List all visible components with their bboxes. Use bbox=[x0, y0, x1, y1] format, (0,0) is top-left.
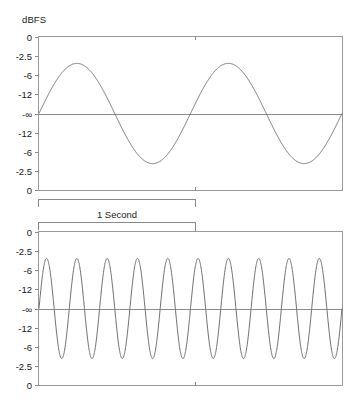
y-tick-mark bbox=[35, 251, 38, 252]
y-tick-label: 0 bbox=[0, 380, 32, 391]
y-tick-label: -6 bbox=[0, 265, 32, 276]
waveform-curve-high-frequency bbox=[39, 232, 342, 385]
y-tick-label: -12 bbox=[0, 284, 32, 295]
y-tick-mark bbox=[35, 289, 38, 290]
x-tick-one-second-bottom bbox=[195, 382, 196, 386]
waveform-figure: dBFS 0-2.5-6-12-∞-12-6-2.50 1 Second bbox=[0, 0, 354, 401]
y-tick-label: -∞ bbox=[0, 303, 32, 314]
y-tick-mark bbox=[35, 328, 38, 329]
x-tick-one-second-top bbox=[195, 228, 196, 232]
y-tick-label: -2.5 bbox=[0, 360, 32, 371]
y-tick-mark bbox=[35, 232, 38, 233]
y-tick-label: 0 bbox=[0, 227, 32, 238]
chart-panel-high-frequency: 0-2.5-6-12-∞-12-6-2.50 bbox=[0, 0, 354, 401]
y-tick-mark bbox=[35, 366, 38, 367]
y-tick-mark bbox=[35, 347, 38, 348]
y-tick-mark bbox=[35, 385, 38, 386]
y-tick-label: -6 bbox=[0, 341, 32, 352]
plot-frame-high-frequency bbox=[38, 231, 343, 386]
y-tick-mark bbox=[35, 309, 38, 310]
y-tick-label: -2.5 bbox=[0, 246, 32, 257]
y-tick-label: -12 bbox=[0, 322, 32, 333]
y-tick-mark bbox=[35, 270, 38, 271]
